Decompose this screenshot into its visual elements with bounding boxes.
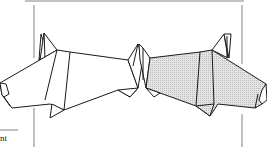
right-origami-animal <box>139 34 267 116</box>
left-origami-animal <box>0 33 143 118</box>
left-back-leg <box>118 88 138 97</box>
diagram-svg <box>0 0 267 147</box>
caption-text: nt <box>0 133 7 143</box>
origami-diagram <box>0 0 267 147</box>
